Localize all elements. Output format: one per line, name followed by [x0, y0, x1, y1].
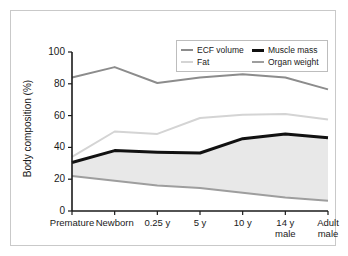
figure-frame: Body composition (%) 020406080100 Premat… — [10, 10, 336, 246]
y-tick-label: 0 — [31, 205, 65, 216]
legend-row: ECF volumeMuscle mass — [181, 44, 323, 56]
legend-entry-muscle-mass: Muscle mass — [252, 45, 323, 55]
legend-swatch-icon — [252, 49, 264, 52]
legend-swatch-icon — [181, 49, 193, 51]
y-tick-label: 100 — [31, 46, 65, 57]
x-tick-label-line1: Adult — [300, 217, 348, 228]
y-tick-label: 80 — [31, 78, 65, 89]
shaded-band-muscle-organ — [72, 134, 328, 201]
chart-plot-area: Body composition (%) 020406080100 Premat… — [11, 11, 348, 256]
y-tick-label: 20 — [31, 173, 65, 184]
legend-label: Fat — [197, 57, 209, 67]
y-tick-label: 40 — [31, 141, 65, 152]
legend-swatch-icon — [181, 61, 193, 63]
x-tick-label-line2: male — [300, 228, 348, 239]
legend-entry-ecf-volume: ECF volume — [181, 45, 252, 55]
chart-legend: ECF volumeMuscle massFatOrgan weight — [176, 40, 328, 72]
legend-swatch-icon — [252, 61, 264, 63]
x-tick-label: Adultmale — [300, 217, 348, 239]
legend-entry-fat: Fat — [181, 57, 252, 67]
legend-row: FatOrgan weight — [181, 56, 323, 68]
legend-label: Organ weight — [268, 57, 319, 67]
legend-label: Muscle mass — [268, 45, 318, 55]
legend-label: ECF volume — [197, 45, 244, 55]
legend-entry-organ-weight: Organ weight — [252, 57, 323, 67]
y-tick-label: 60 — [31, 110, 65, 121]
